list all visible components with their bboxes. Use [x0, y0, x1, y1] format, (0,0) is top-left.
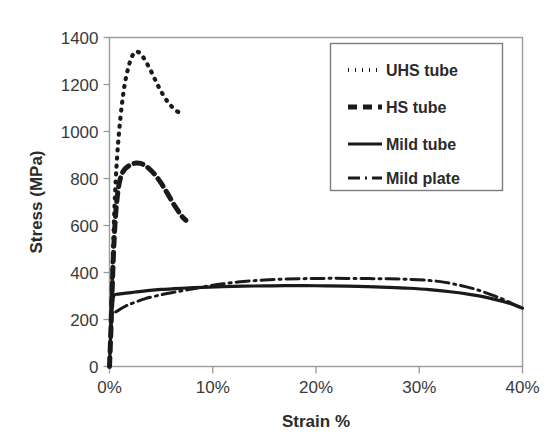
y-axis-title: Stress (MPa): [27, 151, 46, 254]
stress-strain-chart: 0200400600800100012001400 0%10%20%30%40%…: [0, 0, 559, 441]
legend-label-hs-tube: HS tube: [386, 99, 447, 116]
x-tick-label: 0%: [97, 378, 122, 397]
x-tick-label: 40%: [505, 378, 539, 397]
chart-legend: UHS tubeHS tubeMild tubeMild plate: [331, 44, 503, 191]
y-tick-label: 200: [70, 311, 98, 330]
stress-strain-chart-figure: 0200400600800100012001400 0%10%20%30%40%…: [0, 0, 559, 441]
y-tick-label: 1400: [61, 29, 99, 48]
y-tick-label: 1200: [61, 76, 99, 95]
y-tick-label: 600: [70, 217, 98, 236]
y-tick-label: 0: [89, 358, 98, 377]
y-tick-label: 400: [70, 264, 98, 283]
y-tick-label: 800: [70, 170, 98, 189]
legend-label-uhs-tube: UHS tube: [386, 62, 458, 79]
y-tick-label: 1000: [61, 123, 99, 142]
legend-label-mild-plate: Mild plate: [386, 170, 460, 187]
x-axis-title: Strain %: [282, 412, 350, 431]
x-tick-label: 30%: [402, 378, 436, 397]
x-tick-label: 10%: [196, 378, 230, 397]
x-tick-label: 20%: [299, 378, 333, 397]
legend-label-mild-tube: Mild tube: [386, 136, 456, 153]
